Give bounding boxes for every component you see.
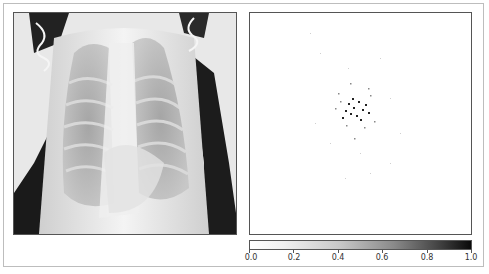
chest-xray-image	[13, 12, 237, 235]
xray-graphic	[14, 13, 236, 234]
colorbar-tick-label: 1.0	[465, 253, 478, 262]
colorbar-tick-label: 0.0	[245, 253, 258, 262]
colorbar-tick-label: 0.6	[376, 253, 389, 262]
attribution-map-axes	[249, 12, 472, 235]
colorbar	[249, 240, 472, 250]
colorbar-tick-label: 0.8	[421, 253, 434, 262]
colorbar-tick-label: 0.4	[332, 253, 345, 262]
colorbar-tick-label: 0.2	[288, 253, 301, 262]
attribution-speckles	[250, 13, 471, 234]
